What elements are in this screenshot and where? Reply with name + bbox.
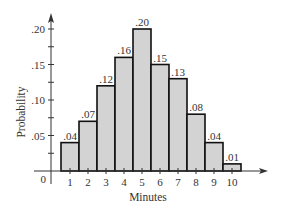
data-label-3: .12 xyxy=(99,73,113,85)
x-tick-label: 2 xyxy=(85,176,91,188)
x-tick-label: 4 xyxy=(121,176,127,188)
data-label-5: .20 xyxy=(135,16,149,28)
x-tick-label: 6 xyxy=(157,176,163,188)
bar-5 xyxy=(133,29,151,171)
x-tick-label: 5 xyxy=(139,176,145,188)
x-tick-label: 9 xyxy=(211,176,217,188)
origin-label: 0 xyxy=(41,173,47,185)
bar-4 xyxy=(115,57,133,171)
data-label-2: .07 xyxy=(81,108,95,120)
x-axis-title: Minutes xyxy=(129,191,167,203)
y-tick-label: .20 xyxy=(31,23,45,35)
bar-1 xyxy=(61,143,79,171)
data-label-8: .08 xyxy=(189,101,203,113)
y-tick-label: .10 xyxy=(31,94,45,106)
bar-9 xyxy=(205,143,223,171)
bar-2 xyxy=(79,121,97,171)
data-label-9: .04 xyxy=(207,130,221,142)
x-tick-label: 8 xyxy=(193,176,199,188)
y-tick-label: .15 xyxy=(31,59,45,71)
data-label-1: .04 xyxy=(63,130,77,142)
y-tick-label: .05 xyxy=(31,130,45,142)
x-tick-label: 3 xyxy=(103,176,109,188)
data-label-7: .13 xyxy=(171,66,185,78)
x-tick-label: 1 xyxy=(67,176,73,188)
y-axis-title: Probability xyxy=(15,86,28,137)
x-tick-label: 7 xyxy=(175,176,181,188)
probability-histogram: .04.07.12.16.20.15.13.08.04.01.05.10.15.… xyxy=(0,0,286,209)
bars-group xyxy=(61,29,241,171)
bar-6 xyxy=(151,65,169,172)
bar-7 xyxy=(169,79,187,171)
data-label-4: .16 xyxy=(117,44,131,56)
bar-8 xyxy=(187,114,205,171)
data-label-6: .15 xyxy=(153,52,167,64)
data-label-10: .01 xyxy=(225,151,239,163)
bar-3 xyxy=(97,86,115,171)
x-tick-label: 10 xyxy=(227,176,239,188)
